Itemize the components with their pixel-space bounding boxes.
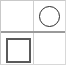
- circle-icon: [39, 6, 60, 27]
- shape-grid-figure: [0, 0, 66, 65]
- grid-cell-top-left[interactable]: [0, 0, 33, 31]
- grid-cell-top-right[interactable]: [34, 0, 66, 31]
- empty-cell-content: [34, 33, 66, 65]
- grid-cell-bottom-right[interactable]: [34, 33, 66, 65]
- grid-cell-bottom-left[interactable]: [0, 33, 33, 65]
- empty-cell-content: [0, 0, 33, 31]
- square-icon: [6, 38, 31, 63]
